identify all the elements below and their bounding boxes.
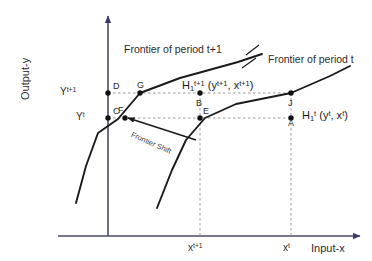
point-label-B: B [196,99,202,108]
point-label-J: J [288,99,293,108]
y-tick-t1-base: Y [60,86,67,97]
h-t1-args-sup2: t+1 [239,79,250,88]
h-label-period-t: H1t (yt, xt) [302,110,348,121]
y-tick-t-base: Y [76,111,83,122]
x-tick-label-t: xt [283,243,290,253]
point-label-D: D [113,82,120,91]
dot-F [122,115,127,120]
x-tick-label-t1: xt+1 [188,243,203,253]
frontier-label-period-t: Frontier of period t [268,54,354,65]
dot-C [105,115,110,120]
frontier-period-t1-curve [76,54,262,203]
h-t1-base: H [182,79,190,91]
point-label-A: A [288,119,294,128]
y-tick-t1-sup: t+1 [67,86,77,93]
h-t-sup: t [314,109,316,118]
h-t1-args-sup1: t+1 [217,79,228,88]
point-label-F: F [118,106,124,115]
y-axis-title: Output-y [20,58,31,100]
point-label-G: G [137,81,144,90]
h-t1-args-mid: , x [228,79,240,91]
h-label-period-t1: H1t+1 (yt+1, xt+1) [182,80,253,91]
h-t1-args-open: (y [208,79,217,91]
dot-D [105,90,110,95]
h-t-base: H [302,109,310,121]
diagram-svg [0,0,372,261]
y-tick-label-t1: Yt+1 [60,87,76,97]
x-axis-title: Input-x [311,243,345,254]
frontier-label-period-t1: Frontier of period t+1 [124,44,222,55]
figure-canvas: Output-y Input-x Yt+1 Yt xt+1 xt Frontie… [0,0,372,261]
h-t-args-mid: , x [331,109,343,121]
x-tick-t1-sup: t+1 [193,242,203,249]
h-t-args-close: ) [344,109,348,121]
dot-J [288,90,293,95]
y-tick-t-sup: t [83,111,85,118]
point-label-E: E [203,107,209,116]
dot-B [197,90,202,95]
dot-E [197,115,202,120]
dot-G [137,90,142,95]
y-tick-label-t: Yt [76,112,85,122]
h-t1-sup: t+1 [194,79,205,88]
leader-frontier-t1 [246,45,259,55]
x-tick-t-sup: t [288,242,290,249]
h-t1-args-close: ) [250,79,254,91]
